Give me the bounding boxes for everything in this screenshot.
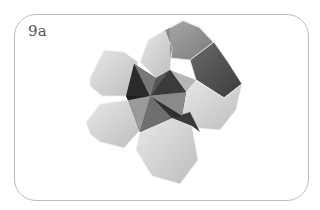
petal-top <box>140 28 172 78</box>
origami-illustration <box>0 0 320 210</box>
